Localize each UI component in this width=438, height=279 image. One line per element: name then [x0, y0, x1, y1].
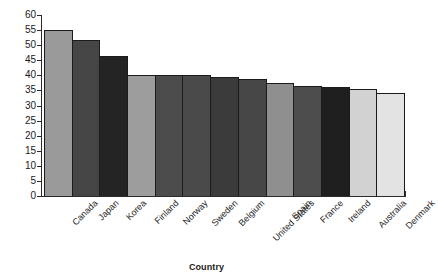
x-axis-tick-label: Denmark — [404, 198, 438, 232]
y-axis-tick-label: 15 — [14, 145, 36, 157]
x-axis-title: Country — [0, 262, 413, 272]
bar[interactable] — [266, 83, 295, 196]
x-axis-tick-label: Norway — [181, 198, 210, 227]
y-axis-tick-labels: 605550454035302520151050 — [14, 9, 36, 201]
y-axis-tick-label: 60 — [14, 9, 36, 21]
x-axis-tick-label: Canada — [70, 198, 100, 228]
y-axis-tick-label: 55 — [14, 24, 36, 36]
bar[interactable] — [238, 79, 267, 196]
bar[interactable] — [72, 40, 101, 196]
y-axis-tick-label: 50 — [14, 39, 36, 51]
bar[interactable] — [210, 77, 239, 196]
y-axis-tick-label: 20 — [14, 130, 36, 142]
y-axis-tick-label: 5 — [14, 175, 36, 187]
bar-series — [44, 15, 404, 196]
y-axis-tick-label: 0 — [14, 190, 36, 202]
x-axis-line — [41, 196, 406, 197]
x-axis-tick-labels: CanadaJapanKoreaFinlandNorwaySwedenBelgi… — [42, 198, 406, 258]
bar[interactable] — [127, 75, 156, 196]
x-axis-tick-label: Korea — [124, 198, 149, 223]
bar[interactable] — [349, 89, 378, 196]
y-axis-tick-label: 35 — [14, 84, 36, 96]
bar[interactable] — [376, 93, 405, 196]
x-axis-tick-label: France — [319, 198, 347, 226]
x-axis-tick-label: Japan — [96, 198, 121, 223]
bar[interactable] — [182, 75, 211, 196]
bar[interactable] — [321, 87, 350, 197]
y-axis-tick-label: 25 — [14, 115, 36, 127]
x-axis-tick-label: Belgium — [237, 198, 268, 229]
bar[interactable] — [99, 56, 128, 196]
bar[interactable] — [293, 86, 322, 196]
plot-area — [42, 15, 406, 196]
y-axis-tick-label: 45 — [14, 54, 36, 66]
x-axis-tick-label: Australia — [376, 198, 409, 231]
y-axis-tick-label: 10 — [14, 160, 36, 172]
bar[interactable] — [44, 30, 73, 196]
bar[interactable] — [155, 75, 184, 196]
x-axis-tick-label: Ireland — [346, 198, 373, 225]
y-axis-tick-label: 30 — [14, 100, 36, 112]
x-axis-tick-label: Finland — [153, 198, 182, 227]
x-axis-tick-label: Sweden — [209, 198, 240, 229]
y-axis-tick-label: 40 — [14, 69, 36, 81]
